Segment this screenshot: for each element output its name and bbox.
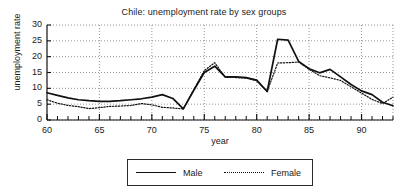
y-tick-label: 20 bbox=[16, 51, 42, 61]
y-tick-label: 10 bbox=[16, 82, 42, 92]
legend-label-male: Male bbox=[183, 168, 203, 178]
x-tick-label: 80 bbox=[244, 125, 270, 135]
legend-label-female: Female bbox=[271, 168, 301, 178]
y-tick-label: 0 bbox=[16, 114, 42, 124]
y-tick-label: 25 bbox=[16, 35, 42, 45]
x-tick-label: 85 bbox=[296, 125, 322, 135]
legend-item-male: Male bbox=[136, 160, 203, 185]
chart-figure: Chile: unemployment rate by sex groups u… bbox=[0, 0, 408, 196]
y-tick-label: 30 bbox=[16, 19, 42, 29]
y-tick-label: 15 bbox=[16, 67, 42, 77]
x-tick-label: 75 bbox=[191, 125, 217, 135]
legend: Male Female bbox=[127, 159, 313, 186]
legend-line-dotted-icon bbox=[224, 168, 264, 177]
legend-item-female: Female bbox=[224, 160, 301, 185]
x-tick-label: 65 bbox=[86, 125, 112, 135]
data-series-layer bbox=[47, 39, 393, 109]
legend-line-solid-icon bbox=[136, 168, 176, 177]
x-tick-label: 70 bbox=[139, 125, 165, 135]
y-tick-label: 5 bbox=[16, 98, 42, 108]
x-tick-label: 90 bbox=[349, 125, 375, 135]
x-tick-label: 60 bbox=[34, 125, 60, 135]
